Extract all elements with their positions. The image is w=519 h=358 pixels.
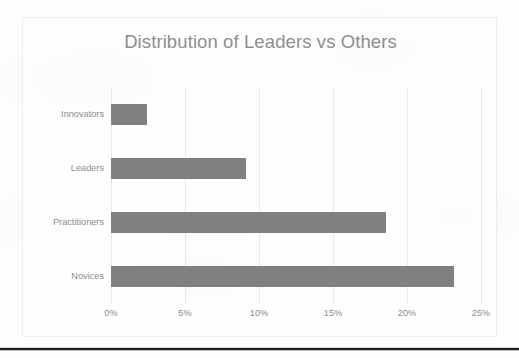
x-axis-tick-0: 0% <box>104 308 117 318</box>
bar-leaders[interactable] <box>111 158 246 179</box>
scanned-page-surface: Distribution of Leaders vs Others Innova… <box>0 0 519 358</box>
bar-practitioners[interactable] <box>111 212 386 233</box>
bar-innovators[interactable] <box>111 104 147 125</box>
chart-title: Distribution of Leaders vs Others <box>23 31 498 53</box>
x-axis-tick-10: 10% <box>250 308 268 318</box>
gridline-25 <box>481 87 482 304</box>
x-axis-tick-20: 20% <box>398 308 416 318</box>
y-axis-label-leaders: Leaders <box>71 163 104 174</box>
x-axis-tick-5: 5% <box>178 308 191 318</box>
bar-novices[interactable] <box>111 266 454 287</box>
plot-area <box>111 87 481 304</box>
x-axis-tick-15: 15% <box>324 308 342 318</box>
y-axis-label-novices: Novices <box>71 271 104 282</box>
chart-frame: Distribution of Leaders vs Others Innova… <box>22 17 497 337</box>
scan-edge-line <box>0 347 519 351</box>
x-axis-tick-labels: 0%5%10%15%20%25% <box>111 308 481 324</box>
y-axis-category-labels: InnovatorsLeadersPractitionersNovices <box>23 87 104 304</box>
y-axis-label-innovators: Innovators <box>61 109 104 120</box>
x-axis-tick-25: 25% <box>472 308 490 318</box>
y-axis-label-practitioners: Practitioners <box>53 217 104 228</box>
